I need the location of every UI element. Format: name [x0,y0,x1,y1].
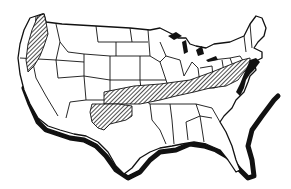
us-map-svg [0,0,291,189]
us-map [0,0,291,189]
